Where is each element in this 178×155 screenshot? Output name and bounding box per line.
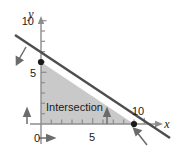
y-tick-label-5: 5 xyxy=(30,67,36,79)
x-intercept-point xyxy=(131,121,137,127)
x-tick-label-10: 10 xyxy=(132,105,144,117)
origin-label: 0 xyxy=(34,132,40,144)
graph-figure: y x 10 5 0 5 10 Intersection xyxy=(0,0,178,155)
coordinate-plane-svg: y x 10 5 0 5 10 Intersection xyxy=(0,0,178,155)
intersection-region-label: Intersection xyxy=(46,101,103,113)
x-tick-label-5: 5 xyxy=(89,131,95,143)
y-intercept-point xyxy=(38,59,44,65)
x-axis-label: x xyxy=(163,117,170,131)
y-tick-label-10: 10 xyxy=(22,15,34,27)
